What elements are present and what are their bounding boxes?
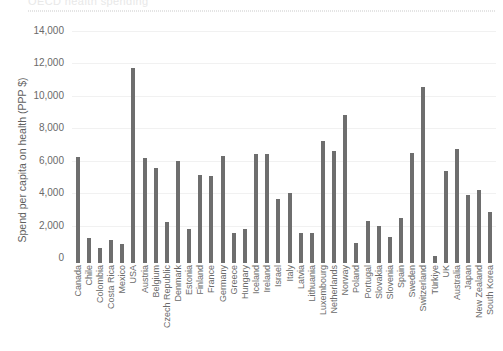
bar-slot[interactable] xyxy=(72,30,83,263)
y-axis-tick-label: 4,000 xyxy=(39,188,64,198)
bar[interactable] xyxy=(109,240,113,264)
bar[interactable] xyxy=(276,199,280,263)
bar[interactable] xyxy=(165,222,169,263)
bar-slot[interactable] xyxy=(206,30,217,263)
bar[interactable] xyxy=(477,190,481,263)
bar-slot[interactable] xyxy=(351,30,362,263)
x-axis-tick-label: New Zealand xyxy=(475,265,484,318)
x-axis-tick-label: Japan xyxy=(464,265,473,290)
bar[interactable] xyxy=(299,233,303,263)
bar-slot[interactable] xyxy=(150,30,161,263)
bar-slot[interactable] xyxy=(251,30,262,263)
bar[interactable] xyxy=(310,233,314,263)
bar[interactable] xyxy=(209,176,213,263)
bar[interactable] xyxy=(198,175,202,263)
bar[interactable] xyxy=(354,243,358,263)
bar[interactable] xyxy=(343,115,347,263)
bar[interactable] xyxy=(421,87,425,263)
bar[interactable] xyxy=(265,154,269,263)
bar[interactable] xyxy=(232,233,236,263)
bar-slot[interactable] xyxy=(195,30,206,263)
bar-slot[interactable] xyxy=(217,30,228,263)
bar-slot[interactable] xyxy=(329,30,340,263)
bar[interactable] xyxy=(332,151,336,263)
bar-slot[interactable] xyxy=(284,30,295,263)
bar[interactable] xyxy=(388,237,392,263)
bar-slot[interactable] xyxy=(117,30,128,263)
bar[interactable] xyxy=(98,248,102,263)
x-axis-tick-label: Norway xyxy=(341,265,350,296)
x-axis-tick-label: Mexico xyxy=(118,265,127,294)
bar[interactable] xyxy=(433,256,437,263)
bar-series xyxy=(72,30,496,263)
bar-slot[interactable] xyxy=(462,30,473,263)
bar[interactable] xyxy=(254,154,258,263)
bar[interactable] xyxy=(243,229,247,263)
bar-slot[interactable] xyxy=(373,30,384,263)
bar-slot[interactable] xyxy=(440,30,451,263)
bar-slot[interactable] xyxy=(362,30,373,263)
bar[interactable] xyxy=(76,157,80,263)
bar[interactable] xyxy=(120,244,124,263)
bar-slot[interactable] xyxy=(407,30,418,263)
bar[interactable] xyxy=(321,141,325,263)
x-axis-tick-label: USA xyxy=(129,265,138,284)
bar-slot[interactable] xyxy=(184,30,195,263)
bar-slot[interactable] xyxy=(340,30,351,263)
bar-slot[interactable] xyxy=(83,30,94,263)
x-axis-tick-slot: Iceland xyxy=(251,263,262,351)
bar-slot[interactable] xyxy=(239,30,250,263)
x-axis-tick-label: Lithuania xyxy=(307,265,316,302)
bar[interactable] xyxy=(288,193,292,263)
bar-slot[interactable] xyxy=(94,30,105,263)
x-axis-tick-label: Poland xyxy=(352,265,361,293)
bar-slot[interactable] xyxy=(295,30,306,263)
bar[interactable] xyxy=(154,168,158,263)
x-axis-tick-slot: Greece xyxy=(228,263,239,351)
bar[interactable] xyxy=(143,158,147,263)
x-axis-tick-label: Belgium xyxy=(151,265,160,298)
bar[interactable] xyxy=(377,226,381,263)
bar-slot[interactable] xyxy=(474,30,485,263)
bar-slot[interactable] xyxy=(139,30,150,263)
bar[interactable] xyxy=(444,171,448,263)
bar-slot[interactable] xyxy=(172,30,183,263)
y-axis-tick-label: 12,000 xyxy=(33,58,64,68)
x-axis-tick-label: Luxembourg xyxy=(319,265,328,315)
bar[interactable] xyxy=(466,195,470,263)
x-axis-tick-slot: Japan xyxy=(462,263,473,351)
bar-slot[interactable] xyxy=(228,30,239,263)
x-axis-tick-label: Estonia xyxy=(185,265,194,295)
x-axis-tick-slot: Norway xyxy=(340,263,351,351)
bar-slot[interactable] xyxy=(105,30,116,263)
bar-slot[interactable] xyxy=(317,30,328,263)
bar[interactable] xyxy=(366,221,370,263)
bar-slot[interactable] xyxy=(485,30,496,263)
bar-slot[interactable] xyxy=(273,30,284,263)
bar-slot[interactable] xyxy=(384,30,395,263)
bar-slot[interactable] xyxy=(128,30,139,263)
bar[interactable] xyxy=(176,161,180,263)
bar[interactable] xyxy=(455,149,459,263)
bar[interactable] xyxy=(221,156,225,263)
bar-slot[interactable] xyxy=(262,30,273,263)
bar[interactable] xyxy=(488,212,492,263)
x-axis-tick-label: Austria xyxy=(140,265,149,293)
bar-slot[interactable] xyxy=(306,30,317,263)
bar-slot[interactable] xyxy=(451,30,462,263)
x-axis-tick-slot: Estonia xyxy=(184,263,195,351)
x-axis-tick-label: Portugal xyxy=(363,265,372,299)
bar-slot[interactable] xyxy=(161,30,172,263)
x-axis-tick-slot: Australia xyxy=(451,263,462,351)
bar[interactable] xyxy=(187,229,191,263)
x-axis-tick-label: Denmark xyxy=(173,265,182,302)
bar-slot[interactable] xyxy=(418,30,429,263)
bar-slot[interactable] xyxy=(396,30,407,263)
bar[interactable] xyxy=(87,238,91,263)
bar-slot[interactable] xyxy=(429,30,440,263)
bar[interactable] xyxy=(399,218,403,263)
x-axis-tick-slot: Canada xyxy=(72,263,83,351)
bar[interactable] xyxy=(131,68,135,263)
x-axis-tick-slot: Switzerland xyxy=(418,263,429,351)
bar[interactable] xyxy=(410,153,414,263)
